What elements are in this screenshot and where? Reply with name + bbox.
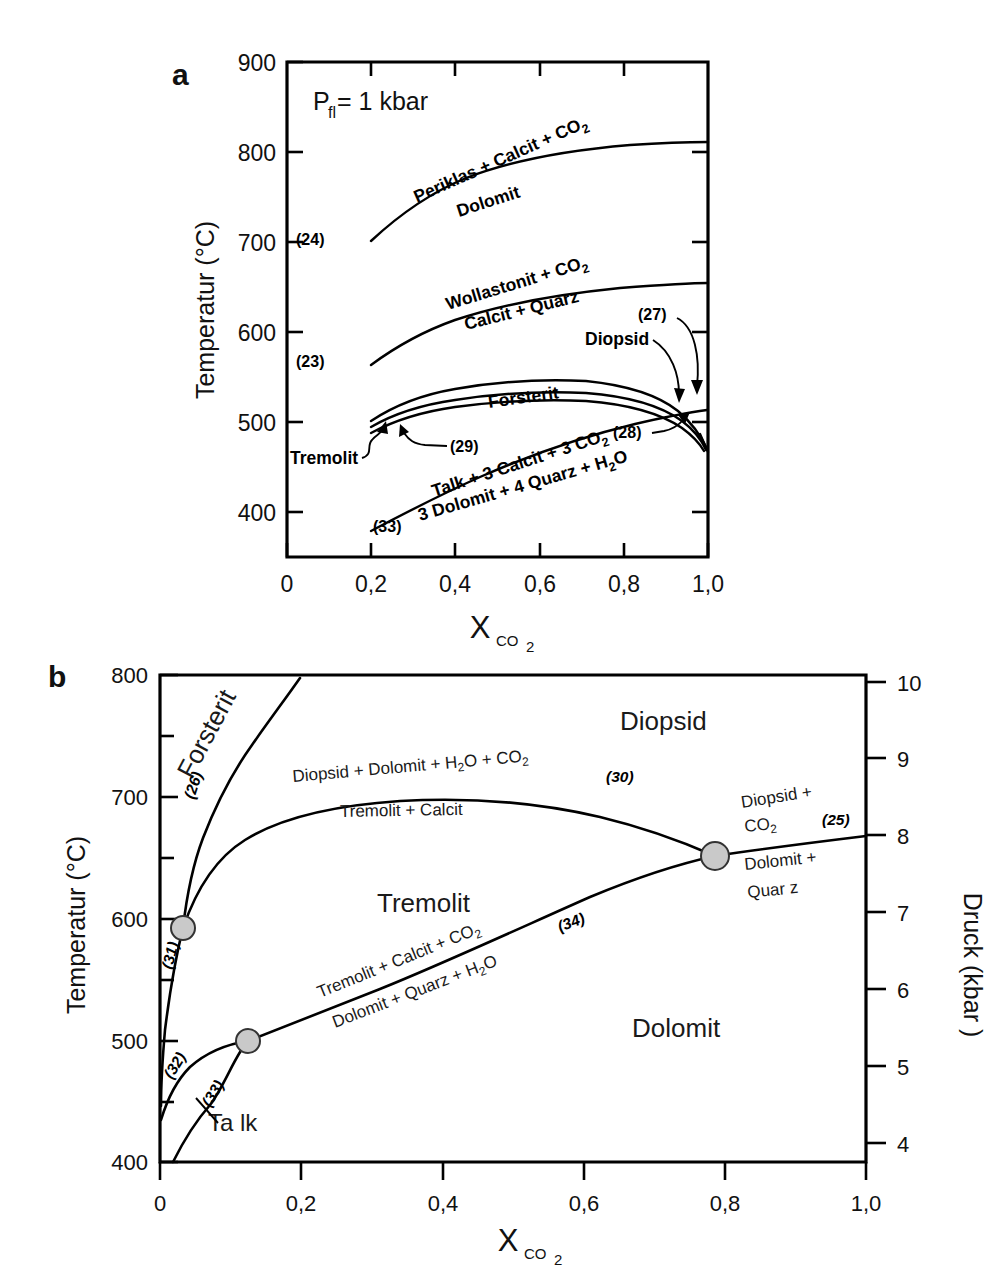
- field-label-tremolit: Tremolit: [377, 888, 471, 918]
- phase-label-forsterit-a: Forsterit: [487, 382, 560, 412]
- svg-text:0,2: 0,2: [286, 1191, 317, 1216]
- svg-text:CO2: CO2: [743, 814, 778, 839]
- invariant-point-1: [171, 916, 195, 940]
- panel-b-left-y-ticklabels: 800 700 600 500 400: [111, 663, 148, 1175]
- reaction-label-25: Diopsid + CO2 Dolomit + Quar z (25): [740, 782, 850, 902]
- reaction-label-23: Wollastonit + CO2 Calcit + Quarz (23): [296, 252, 591, 370]
- reaction-number-32: (32): [160, 1049, 189, 1081]
- reaction-number-31: (31): [158, 940, 181, 971]
- panel-b-x-ticklabels: 0 0,2 0,4 0,6 0,8 1,0: [154, 1191, 881, 1216]
- phase-label-diopsid-a: Diopsid: [585, 329, 685, 403]
- svg-text:X: X: [498, 1223, 519, 1258]
- svg-text:Diopsid: Diopsid: [585, 329, 649, 349]
- svg-text:(24): (24): [296, 231, 324, 248]
- panel-a-letter: a: [172, 58, 189, 91]
- reaction-label-34: Tremolit + Calcit + CO2 Dolomit + Quarz …: [314, 909, 587, 1034]
- reaction-label-30: Diopsid + Dolomit + H2O + CO2 Tremolit +…: [292, 746, 634, 821]
- field-label-diopsid: Diopsid: [620, 706, 707, 736]
- svg-text:(27): (27): [638, 306, 666, 323]
- svg-text:2: 2: [526, 638, 534, 655]
- reaction-label-27: (27): [638, 306, 703, 395]
- svg-text:4: 4: [897, 1132, 909, 1157]
- svg-text:0,4: 0,4: [439, 571, 471, 597]
- svg-text:9: 9: [897, 747, 909, 772]
- panel-b-right-y-ticks: [866, 682, 886, 1143]
- svg-text:700: 700: [111, 785, 148, 810]
- panel-a-x-ticklabels: 0 0,2 0,4 0,6 0,8 1,0: [281, 571, 724, 597]
- panel-a-y-ticklabels: 900 800 700 600 500 400: [238, 50, 276, 526]
- svg-text:8: 8: [897, 824, 909, 849]
- svg-text:0,6: 0,6: [524, 571, 556, 597]
- svg-text:800: 800: [238, 140, 276, 166]
- svg-text:5: 5: [897, 1055, 909, 1080]
- svg-text:Diopsid + Dolomit + H2O + CO2: Diopsid + Dolomit + H2O + CO2: [292, 746, 530, 789]
- svg-text:6: 6: [897, 978, 909, 1003]
- svg-text:600: 600: [238, 320, 276, 346]
- svg-text:(33): (33): [373, 518, 401, 535]
- svg-text:(30): (30): [606, 768, 634, 785]
- figure-root: a 900 800 700 600 500 400 Temperatur (°C…: [0, 0, 999, 1286]
- svg-text:CO: CO: [524, 1245, 547, 1262]
- panel-b: b 800 700 600 500 400 Temperatur (°C) 10…: [0, 660, 999, 1286]
- panel-a-pfl-annotation: P fl = 1 kbar: [313, 87, 428, 121]
- svg-text:500: 500: [238, 410, 276, 436]
- svg-text:fl: fl: [328, 104, 336, 121]
- svg-text:(25): (25): [822, 811, 850, 828]
- svg-text:Tremolit: Tremolit: [290, 448, 358, 468]
- svg-text:Diopsid +: Diopsid +: [740, 782, 814, 812]
- svg-text:Dolomit: Dolomit: [454, 182, 522, 221]
- panel-b-x-ticks: [160, 1162, 866, 1180]
- svg-text:0,4: 0,4: [428, 1191, 459, 1216]
- svg-text:0: 0: [154, 1191, 166, 1216]
- svg-text:400: 400: [111, 1150, 148, 1175]
- panel-b-right-axis-title: Druck (kbar ): [959, 893, 987, 1037]
- panel-a-y-axis-title: Temperatur (°C): [191, 221, 219, 399]
- svg-text:0,6: 0,6: [569, 1191, 600, 1216]
- svg-text:Druck (kbar ): Druck (kbar ): [959, 893, 987, 1037]
- field-label-dolomit: Dolomit: [632, 1013, 721, 1043]
- svg-text:(23): (23): [296, 353, 324, 370]
- panel-b-x-axis-title: X CO 2: [498, 1223, 563, 1268]
- field-label-forsterit: Forsterit: [171, 684, 243, 783]
- svg-text:1,0: 1,0: [851, 1191, 882, 1216]
- svg-text:(34): (34): [555, 909, 587, 934]
- svg-text:500: 500: [111, 1029, 148, 1054]
- svg-text:Tremolit + Calcit: Tremolit + Calcit: [340, 800, 463, 821]
- svg-text:Quar z: Quar z: [746, 878, 799, 902]
- svg-text:900: 900: [238, 50, 276, 76]
- field-label-talk: Ta lk: [208, 1109, 258, 1136]
- svg-text:800: 800: [111, 663, 148, 688]
- svg-text:600: 600: [111, 907, 148, 932]
- panel-a-x-axis-title: X CO 2: [470, 610, 535, 655]
- svg-text:400: 400: [238, 500, 276, 526]
- svg-text:X: X: [470, 610, 491, 645]
- svg-text:700: 700: [238, 230, 276, 256]
- svg-text:CO: CO: [496, 632, 519, 649]
- svg-text:2: 2: [554, 1251, 562, 1268]
- invariant-point-3: [701, 842, 729, 870]
- svg-text:0,2: 0,2: [355, 571, 387, 597]
- panel-a: a 900 800 700 600 500 400 Temperatur (°C…: [0, 0, 999, 670]
- svg-text:= 1 kbar: = 1 kbar: [337, 87, 428, 115]
- phase-label-tremolit-a: Tremolit: [290, 421, 388, 468]
- panel-b-right-y-ticklabels: 10 9 8 7 6 5 4: [897, 671, 921, 1157]
- svg-text:0,8: 0,8: [608, 571, 640, 597]
- svg-text:0,8: 0,8: [710, 1191, 741, 1216]
- svg-text:0: 0: [281, 571, 294, 597]
- svg-text:(28): (28): [613, 424, 641, 441]
- reaction-label-24: Periklas + Calcit + CO2 Dolomit (24): [296, 112, 592, 248]
- svg-text:1,0: 1,0: [692, 571, 724, 597]
- svg-text:7: 7: [897, 901, 909, 926]
- reaction-label-29: (29): [399, 424, 478, 455]
- invariant-point-2: [236, 1029, 260, 1053]
- panel-b-letter: b: [48, 660, 66, 693]
- panel-b-y-axis-title: Temperatur (°C): [62, 836, 90, 1014]
- svg-text:(29): (29): [450, 438, 478, 455]
- svg-text:10: 10: [897, 671, 921, 696]
